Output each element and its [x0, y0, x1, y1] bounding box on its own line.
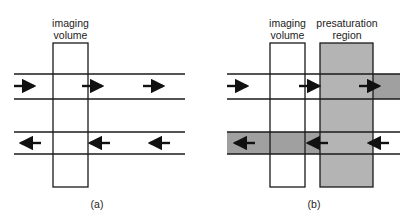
label-line: imaging [265, 17, 310, 29]
imaging-volume-box-b [270, 43, 305, 187]
panel-b [227, 43, 400, 187]
label-line: imaging [48, 17, 93, 29]
imaging-volume-box-a [53, 43, 88, 187]
panel-a [14, 43, 185, 187]
caption-a: (a) [85, 198, 109, 210]
imaging-volume-label-a: imaging volume [48, 17, 93, 41]
label-line: region [313, 29, 381, 41]
presaturation-label: presaturation region [313, 17, 381, 41]
label-line: volume [265, 29, 310, 41]
presaturation-region [320, 43, 373, 187]
imaging-volume-label-b: imaging volume [265, 17, 310, 41]
label-line: presaturation [313, 17, 381, 29]
label-line: volume [48, 29, 93, 41]
caption-b: (b) [302, 198, 326, 210]
